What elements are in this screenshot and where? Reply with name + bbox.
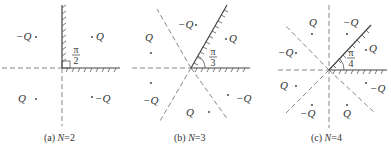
angle-label: π 2 [72, 44, 80, 66]
charge-pos-lower-left: Q [18, 92, 37, 104]
charge-neg-lower-right: −Q [91, 92, 110, 104]
charge-pos-top-left: Q [309, 16, 317, 35]
charge-neg-left-upper: −Q [278, 46, 297, 58]
charge-pos-bottom: Q [186, 106, 210, 118]
conductor-wall-60deg [191, 5, 228, 68]
angle-arc [340, 59, 344, 70]
svg-text:π: π [210, 46, 215, 57]
conductor-wall-horizontal [329, 70, 387, 74]
svg-text:−Q: −Q [16, 30, 31, 42]
conductor-wall-vertical [62, 5, 66, 68]
svg-text:π: π [348, 47, 353, 58]
panel-a: π 2 −Q Q Q −Q (a) N=2 [2, 5, 120, 144]
panel-b: π 3 −Q Q Q −Q Q −Q (b) N=3 [132, 5, 251, 144]
charge-neg-right-lower: −Q [365, 82, 385, 94]
svg-text:−Q: −Q [143, 94, 158, 106]
charge-pos-upper-right: Q [225, 32, 237, 44]
svg-text:−Q: −Q [300, 107, 315, 119]
charge-pos-left-lower: Q [280, 79, 297, 91]
svg-text:−Q: −Q [178, 18, 193, 30]
svg-text:Q: Q [18, 92, 26, 104]
svg-text:Q: Q [280, 79, 288, 91]
svg-text:2: 2 [74, 55, 79, 66]
charge-neg-top-right: −Q [343, 16, 358, 35]
caption-c: (c) N=4 [311, 132, 342, 144]
charge-neg-top: −Q [178, 18, 197, 30]
svg-text:Q: Q [145, 31, 153, 43]
svg-text:Q: Q [309, 16, 317, 28]
dashed-line-315deg [329, 70, 375, 113]
charge-neg-upper-left: −Q [16, 30, 37, 42]
svg-text:−Q: −Q [370, 82, 385, 94]
charge-pos-right-upper: Q [365, 42, 377, 54]
image-charge-figure: π 2 −Q Q Q −Q (a) N=2 [0, 0, 391, 153]
svg-text:−Q: −Q [95, 92, 110, 104]
charge-pos-upper-left: Q [145, 31, 153, 54]
angle-label: π 3 [209, 46, 217, 68]
svg-text:−Q: −Q [343, 16, 358, 28]
charge-neg-lower-left: −Q [143, 82, 158, 106]
angle-label: π 4 [347, 47, 355, 69]
svg-text:−Q: −Q [236, 92, 251, 104]
svg-text:Q: Q [343, 107, 351, 119]
svg-text:Q: Q [229, 32, 237, 44]
caption-a: (a) N=2 [44, 132, 75, 144]
conductor-wall-horizontal [62, 68, 120, 72]
svg-text:−Q: −Q [278, 46, 293, 58]
svg-text:4: 4 [349, 58, 354, 69]
charge-neg-lower-right: −Q [227, 92, 251, 104]
charge-pos-bottom-right: Q [343, 104, 351, 119]
caption-b: (b) N=3 [174, 132, 205, 144]
right-angle-marker [62, 61, 70, 68]
svg-text:Q: Q [96, 30, 104, 42]
svg-text:Q: Q [186, 106, 194, 118]
panel-c: π 4 Q −Q −Q Q Q −Q −Q [278, 5, 387, 144]
svg-text:3: 3 [211, 57, 216, 68]
charge-neg-bottom-left: −Q [300, 104, 315, 119]
svg-text:π: π [73, 44, 78, 55]
svg-text:Q: Q [369, 42, 377, 54]
conductor-wall-horizontal [191, 68, 250, 72]
charge-pos-upper-right: Q [91, 30, 104, 42]
